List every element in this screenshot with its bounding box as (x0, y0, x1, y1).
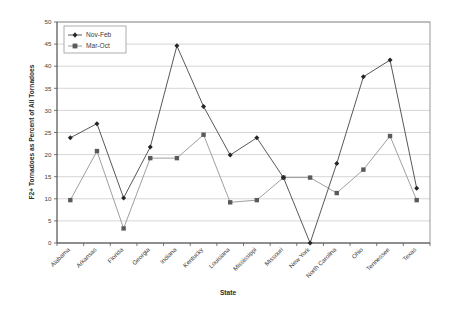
y-tick-label: 35 (45, 85, 52, 92)
data-point-marker (148, 156, 152, 160)
data-point-marker (68, 198, 72, 202)
y-tick-label: 40 (45, 62, 52, 69)
data-point-marker (228, 200, 232, 204)
data-point-marker (175, 156, 179, 160)
x-axis-title: State (220, 289, 236, 296)
legend-label-mar-oct: Mar-Oct (86, 42, 110, 49)
y-axis-title: F2+ Tornadoes as Percent of All Tornadoe… (28, 64, 35, 199)
y-tick-label: 25 (45, 129, 52, 136)
data-point-marker (308, 175, 312, 179)
data-point-marker (414, 198, 418, 202)
legend: Nov-Feb Mar-Oct (64, 26, 126, 53)
y-tick-label: 0 (48, 239, 52, 246)
chart-canvas: 05101520253035404550 AlabamaArkansasFlor… (0, 0, 452, 309)
x-tick-label: Tennessee (365, 245, 392, 272)
square-icon (73, 44, 78, 49)
y-tick-label: 5 (48, 217, 52, 224)
x-tick-label: Arkansas (74, 246, 97, 269)
y-tick-label: 30 (45, 107, 52, 114)
x-tick-label: Texas (401, 246, 417, 262)
x-tick-label: Indiana (158, 245, 178, 265)
y-tick-label: 10 (45, 195, 52, 202)
data-point-marker (201, 133, 205, 137)
x-tick-label: Alabama (49, 245, 72, 268)
x-tick-label: Kentucky (181, 245, 205, 269)
data-point-marker (335, 191, 339, 195)
data-point-marker (121, 226, 125, 230)
y-tick-label: 45 (45, 40, 52, 47)
tornado-percent-line-chart: 05101520253035404550 AlabamaArkansasFlor… (0, 0, 452, 309)
data-point-marker (361, 167, 365, 171)
x-tick-label: Florida (106, 245, 125, 264)
x-tick-label: New York (287, 245, 311, 269)
data-point-marker (95, 149, 99, 153)
x-tick-label: Georgia (130, 245, 151, 266)
x-axis-tick-labels: AlabamaArkansasFloridaGeorgiaIndianaKent… (49, 245, 418, 279)
x-tick-label: Mississippi (231, 246, 257, 272)
legend-label-nov-feb: Nov-Feb (86, 31, 112, 38)
x-tick-label: Missouri (263, 246, 284, 267)
x-tick-label: Louisiana (207, 245, 231, 269)
y-tick-label: 50 (45, 18, 52, 25)
y-tick-label: 15 (45, 173, 52, 180)
y-axis-ticks: 05101520253035404550 (45, 18, 57, 246)
y-tick-label: 20 (45, 151, 52, 158)
x-tick-label: Ohio (350, 245, 365, 260)
data-point-marker (255, 198, 259, 202)
data-point-marker (388, 134, 392, 138)
